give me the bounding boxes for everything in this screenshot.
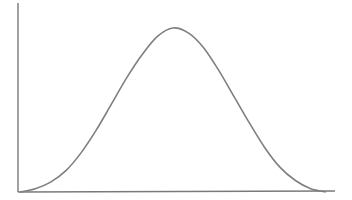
x-axis [18, 191, 335, 192]
bell-curve-chart [0, 0, 352, 200]
bell-curve-line [20, 28, 326, 192]
